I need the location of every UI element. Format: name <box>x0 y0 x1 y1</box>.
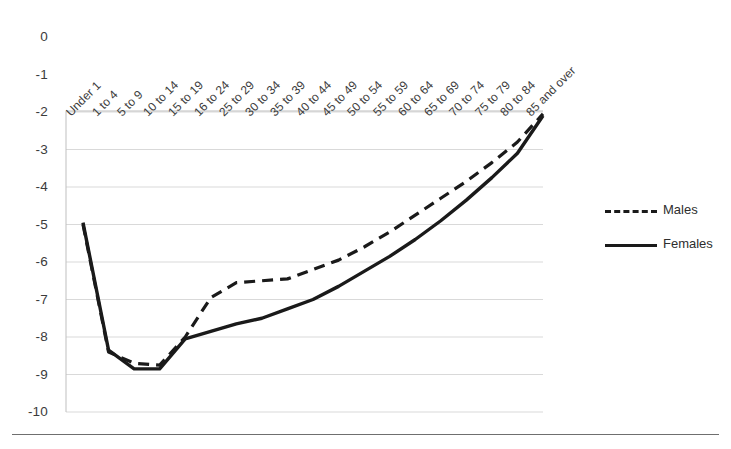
legend-swatch-dashed <box>605 210 657 213</box>
series-line-females <box>83 116 543 369</box>
y-axis-label: 0 <box>14 29 48 44</box>
y-axis-label: -7 <box>14 292 48 307</box>
y-axis-label: -5 <box>14 217 48 232</box>
y-axis-label: -4 <box>14 179 48 194</box>
series-line-males <box>83 114 543 365</box>
legend-label: Females <box>663 236 713 251</box>
y-axis-label: -8 <box>14 329 48 344</box>
y-axis-label: -1 <box>14 67 48 82</box>
y-axis-label: -10 <box>14 404 48 419</box>
chart-container: 0-1-2-3-4-5-6-7-8-9-10 Under 11 to 45 to… <box>0 0 731 449</box>
series-lines-group <box>83 114 543 369</box>
y-axis-label: -2 <box>14 104 48 119</box>
legend-swatch-solid <box>605 244 657 247</box>
gridlines-group <box>66 112 543 412</box>
bottom-divider-rule <box>12 434 719 435</box>
chart-plot-area <box>0 0 731 449</box>
y-axis-label: -6 <box>14 254 48 269</box>
y-axis-label: -3 <box>14 142 48 157</box>
legend-label: Males <box>663 202 698 217</box>
y-axis-label: -9 <box>14 367 48 382</box>
